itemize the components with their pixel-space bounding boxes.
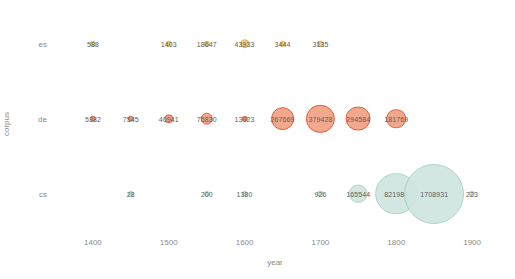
bubble-cs-1700[interactable] (317, 190, 323, 196)
bubble-cs-1550[interactable] (203, 190, 209, 196)
bubble-cs-1900[interactable] (469, 190, 475, 196)
bubble-chart: corpus esdecs 58814031864743933344431355… (0, 0, 515, 279)
x-tick-1500: 1500 (160, 238, 178, 247)
x-axis-title: year (267, 258, 283, 267)
y-tick-es: es (39, 39, 47, 48)
bubble-es-1550[interactable] (203, 40, 209, 46)
bubble-de-1600[interactable] (241, 115, 247, 121)
x-tick-1800: 1800 (387, 238, 405, 247)
y-tick-cs: cs (39, 189, 47, 198)
bubble-cs-1750[interactable] (349, 184, 368, 203)
bubble-de-1800[interactable] (386, 109, 406, 129)
bubble-de-1750[interactable] (346, 106, 371, 131)
bubble-de-1400[interactable] (90, 115, 96, 121)
bubble-cs-1450[interactable] (128, 190, 134, 196)
bubble-cs-1850[interactable] (404, 164, 464, 224)
x-axis: 140015001600170018001900 (55, 232, 510, 254)
x-tick-1400: 1400 (84, 238, 102, 247)
bubble-cs-1600[interactable] (241, 190, 247, 196)
bubble-de-1700[interactable] (306, 104, 334, 132)
bubble-de-1500[interactable] (164, 114, 173, 123)
y-tick-de: de (38, 114, 47, 123)
x-tick-1700: 1700 (312, 238, 330, 247)
bubble-de-1550[interactable] (200, 112, 213, 125)
x-tick-1600: 1600 (236, 238, 254, 247)
bubble-es-1650[interactable] (279, 40, 285, 46)
bubble-de-1450[interactable] (128, 115, 134, 121)
bubble-es-1600[interactable] (240, 39, 250, 49)
bubble-es-1400[interactable] (90, 40, 96, 46)
bubble-es-1700[interactable] (317, 40, 323, 46)
bubble-de-1650[interactable] (271, 107, 295, 131)
y-axis: corpus esdecs (0, 6, 55, 231)
x-tick-1900: 1900 (463, 238, 481, 247)
y-axis-title: corpus (2, 112, 11, 136)
plot-area: 5881403186474393334443135538275454094175… (55, 6, 510, 231)
bubble-es-1500[interactable] (166, 40, 172, 46)
